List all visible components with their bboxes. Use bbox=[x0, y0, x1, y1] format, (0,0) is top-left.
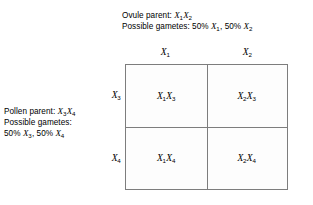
pollen-parent-allele-1: X3 bbox=[58, 106, 67, 116]
pollen-gamete-1: X3 bbox=[23, 128, 32, 138]
pollen-gamete-2: X4 bbox=[55, 128, 64, 138]
punnett-cell-x2x3: X2X3 bbox=[207, 65, 288, 127]
pollen-parent-label: Pollen parent: bbox=[4, 107, 58, 116]
pollen-gametes-percent-1: 50% bbox=[4, 129, 23, 138]
column-header-x2: X2 bbox=[207, 47, 288, 58]
punnett-square-grid: X1X3 X2X3 X1X4 X2X4 bbox=[125, 64, 288, 190]
punnett-cell-x2x4: X2X4 bbox=[207, 127, 288, 189]
punnett-square-diagram: Ovule parent: X1X2 Possible gametes: 50%… bbox=[0, 0, 313, 205]
pollen-parent-allele-2: X4 bbox=[67, 106, 76, 116]
ovule-parent-genotype-line: Ovule parent: X1X2 bbox=[122, 10, 253, 21]
row-header-x3: X3 bbox=[103, 89, 121, 101]
ovule-parent-allele-1: X1 bbox=[174, 10, 183, 20]
ovule-parent-gametes-line: Possible gametes: 50% X1, 50% X2 bbox=[122, 21, 253, 32]
ovule-gametes-label: Possible gametes: 50% bbox=[122, 22, 211, 31]
ovule-parent-label: Ovule parent: bbox=[122, 11, 174, 20]
ovule-parent-allele-2: X2 bbox=[183, 10, 192, 20]
ovule-parent-caption: Ovule parent: X1X2 Possible gametes: 50%… bbox=[122, 10, 253, 32]
column-header-x1: X1 bbox=[125, 47, 206, 58]
ovule-gamete-2: X2 bbox=[244, 21, 253, 31]
pollen-parent-caption: Pollen parent: X3X4 Possible gametes: 50… bbox=[4, 106, 76, 139]
pollen-gametes-separator: , 50% bbox=[32, 129, 56, 138]
punnett-cell-x1x3: X1X3 bbox=[126, 65, 207, 127]
ovule-gametes-separator: , 50% bbox=[220, 22, 244, 31]
pollen-gametes-values-line: 50% X3, 50% X4 bbox=[4, 128, 76, 139]
row-header-x4: X4 bbox=[103, 152, 121, 164]
ovule-gamete-1: X1 bbox=[211, 21, 220, 31]
pollen-gametes-label-line: Possible gametes: bbox=[4, 117, 76, 128]
pollen-parent-genotype-line: Pollen parent: X3X4 bbox=[4, 106, 76, 117]
punnett-cell-x1x4: X1X4 bbox=[126, 127, 207, 189]
